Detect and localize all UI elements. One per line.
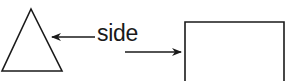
diagram-canvas <box>0 0 285 81</box>
side-label: side <box>97 20 138 46</box>
side-diagram: side <box>0 0 285 81</box>
square-shape <box>185 22 284 81</box>
triangle-shape <box>2 9 62 71</box>
